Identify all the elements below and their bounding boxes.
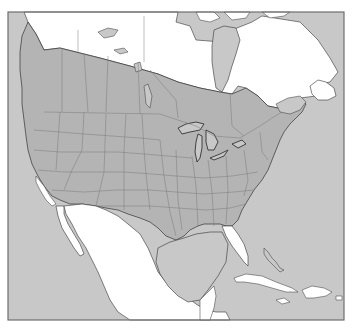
- island-puerto-rico: [336, 296, 342, 300]
- range-map: [0, 0, 357, 332]
- map-canvas: [0, 0, 357, 332]
